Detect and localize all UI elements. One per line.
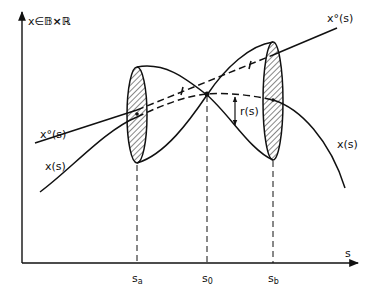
solution-label-left: x(s) (45, 160, 66, 173)
projection-lines (137, 96, 273, 263)
reference-label-left: x°(s) (40, 128, 66, 141)
tick-labels: sa s0 sb (132, 272, 279, 286)
reference-label-top: x°(s) (327, 12, 353, 25)
reference-tick-2 (249, 61, 251, 69)
x-axis-label: s (345, 247, 351, 260)
reference-inner (137, 55, 273, 110)
tick-sb: sb (268, 272, 279, 286)
solution-solid-right (273, 100, 345, 188)
reference-trajectory (35, 28, 337, 143)
crossing-point (205, 92, 210, 97)
solution-trajectory (40, 93, 345, 192)
reference-solid-right (273, 28, 337, 55)
tick-s0: s0 (202, 272, 213, 286)
tick-sa: sa (132, 272, 143, 286)
point-sb (271, 98, 275, 102)
solution-label-right: x(s) (337, 138, 358, 151)
point-sa (135, 112, 139, 116)
tube-diagram: x∈𝔹×ℝ s sa s0 sb (0, 0, 372, 300)
reference-tick-1 (181, 87, 183, 95)
axes (22, 12, 358, 263)
funnel-outline (137, 42, 273, 163)
y-axis-label: x∈𝔹×ℝ (28, 15, 71, 28)
radius-label: r(s) (240, 105, 259, 118)
